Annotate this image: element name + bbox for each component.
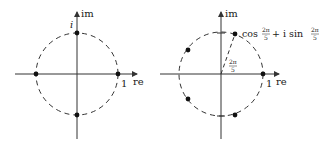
left-point-negi xyxy=(75,113,80,118)
left-point-1 xyxy=(116,72,121,77)
left-im-label: im xyxy=(81,8,94,19)
angle-label-num: 2π xyxy=(229,58,237,65)
annotation-frac1-num: 2π xyxy=(262,26,270,33)
right-im-label: im xyxy=(225,8,238,19)
right-point-k2 xyxy=(186,48,191,53)
roots-of-unity-figure: im re i 1 im re 1 cos 2π 5 + i sin 2π 5 … xyxy=(0,0,327,150)
left-diagram: im re i 1 xyxy=(15,8,144,139)
left-re-label: re xyxy=(133,76,144,87)
left-i-label: i xyxy=(70,19,73,30)
angle-label-den: 5 xyxy=(231,66,235,73)
annotation-plus-i-sin: + i sin xyxy=(272,28,303,39)
right-point-k3 xyxy=(186,97,191,102)
right-one-label: 1 xyxy=(266,78,272,89)
annotation-frac2-num: 2π xyxy=(311,26,319,33)
right-re-label: re xyxy=(276,76,287,87)
annotation-frac1-den: 5 xyxy=(264,34,268,41)
annotation-frac2-den: 5 xyxy=(313,34,317,41)
right-point-k0 xyxy=(261,72,266,77)
annotation-cos: cos xyxy=(242,28,258,39)
right-point-k4 xyxy=(233,113,238,118)
left-one-label: 1 xyxy=(121,78,127,89)
right-diagram: im re 1 cos 2π 5 + i sin 2π 5 2π 5 xyxy=(160,8,319,139)
left-point-neg1 xyxy=(34,72,39,77)
left-point-i xyxy=(75,31,80,36)
right-point-k1 xyxy=(233,32,238,37)
